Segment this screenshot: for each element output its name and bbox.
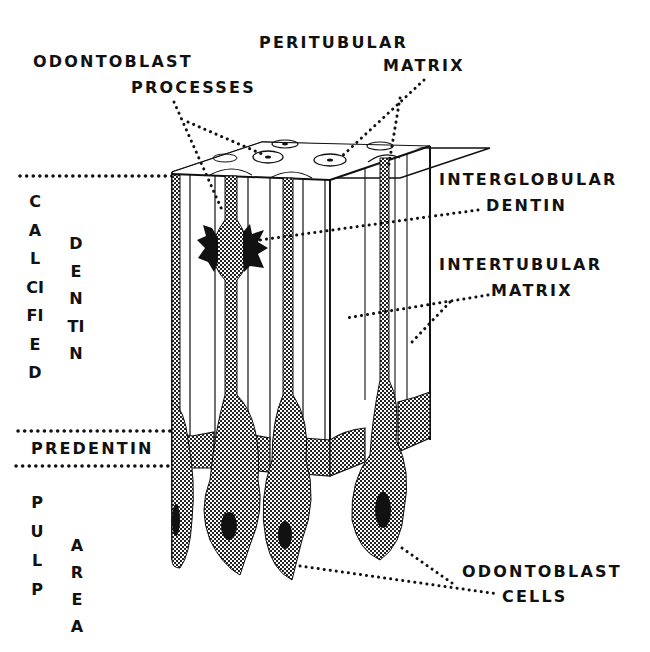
- label-peritubular-line1: PERITUBULAR: [259, 34, 408, 52]
- label-area-vertical: AREA: [67, 532, 87, 640]
- dentin-block-illustration: [0, 0, 650, 652]
- label-pulp-vertical: PULP: [27, 488, 47, 604]
- label-dentin-vertical: DENTIN: [66, 230, 86, 368]
- label-odontoblast-cells-line1: ODONTOBLAST: [462, 563, 622, 581]
- label-odontoblast-processes-line2: PROCESSES: [131, 79, 256, 97]
- label-intertubular-line2: MATRIX: [491, 282, 573, 300]
- odontoblast-processes: [172, 158, 407, 580]
- label-odontoblast-cells-line2: CELLS: [502, 588, 568, 606]
- label-peritubular-line2: MATRIX: [383, 57, 465, 75]
- label-interglobular-line1: INTERGLOBULAR: [439, 171, 618, 189]
- label-interglobular-line2: DENTIN: [486, 197, 567, 215]
- label-odontoblast-processes-line1: ODONTOBLAST: [33, 53, 193, 71]
- dentin-diagram: ODONTOBLAST PROCESSES PERITUBULAR MATRIX…: [0, 0, 650, 652]
- label-intertubular-line1: INTERTUBULAR: [439, 256, 602, 274]
- label-calcified-vertical: CALCIFIED: [25, 188, 45, 388]
- label-predentin: PREDENTIN: [31, 440, 154, 458]
